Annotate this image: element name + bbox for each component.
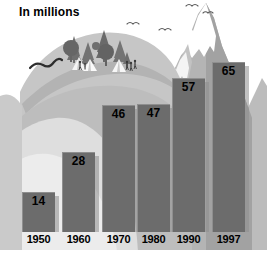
bar-value-1950: 14 [22,194,55,208]
category-label-1990: 1990 [166,233,211,245]
category-label-1997: 1997 [206,233,251,245]
bar-shadow [55,196,59,232]
left-edge-slope [0,94,22,252]
bar-value-1990: 57 [172,80,205,94]
bar-chart-figure: In millions 14 1950 28 1960 46 1970 47 1… [0,0,267,258]
bar-1980 [137,104,170,232]
bar-shadow [245,66,249,232]
bottom-margin [0,250,267,258]
bar-1970 [102,105,135,232]
bar-1990 [172,78,205,232]
chart-title: In millions [19,5,79,19]
bar-value-1960: 28 [62,154,95,168]
category-label-1960: 1960 [56,233,101,245]
bar-value-1970: 46 [102,107,135,121]
bar-shadow [95,156,99,232]
bar-value-1997: 65 [212,64,245,78]
tree-icon [92,42,100,50]
category-label-1950: 1950 [16,233,61,245]
bar-shadow [205,82,209,232]
bar-value-1980: 47 [137,106,170,120]
bar-1997 [212,62,245,232]
